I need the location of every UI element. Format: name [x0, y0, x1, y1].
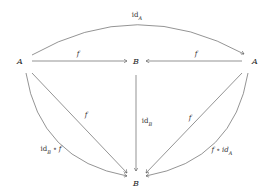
label-f-diag-left: f [85, 111, 88, 119]
label-f-diag-right: f [189, 114, 192, 122]
arrow-f-diag-left [32, 73, 127, 173]
label-f-compose-ida: f ∘ idA [212, 146, 233, 155]
diagram-arrows [0, 0, 268, 195]
label-f-left: f [77, 50, 80, 58]
arrow-idb-f-curve [26, 73, 127, 176]
object-a-right: A [252, 57, 258, 66]
object-b-bottom: B [133, 179, 139, 188]
object-a-left: A [17, 57, 23, 66]
object-b-top: B [133, 57, 139, 66]
label-idb-compose-f: idB ∘ f [41, 145, 62, 154]
label-id-a: idA [132, 11, 142, 20]
arrow-f-ida-curve [146, 73, 248, 176]
label-id-b: idB [142, 117, 152, 126]
label-f-right: f [195, 50, 198, 58]
arrow-id-a-arc [32, 25, 244, 55]
arrow-f-diag-right [146, 73, 242, 173]
